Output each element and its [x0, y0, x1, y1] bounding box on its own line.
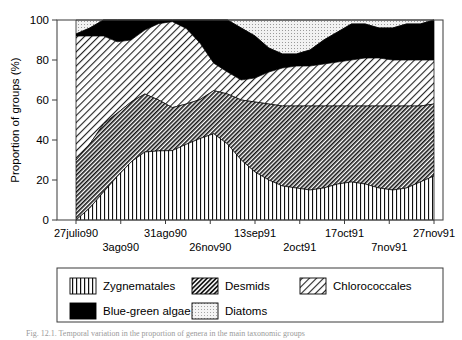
- y-tick-label: 20: [36, 174, 49, 186]
- legend-swatch: [192, 303, 218, 319]
- stacked-area-chart: 020406080100 27julio9031ago9013sep9117oc…: [0, 0, 462, 340]
- x-tick-label: 27nov91: [413, 227, 455, 239]
- figure-caption: Fig. 12.1. Temporal variation in the pro…: [26, 329, 446, 339]
- legend-label: Desmids: [225, 280, 270, 292]
- y-tick-label: 80: [36, 54, 49, 66]
- y-axis: 020406080100: [30, 14, 57, 226]
- y-axis-title: Proportion of groups (%): [9, 57, 21, 182]
- legend-label: Blue-green algae: [103, 305, 191, 317]
- legend: ZygnematalesDesmidsChlorococcalesBlue-gr…: [57, 268, 443, 322]
- legend-item-desmids[interactable]: Desmids: [192, 278, 270, 294]
- legend-label: Chlorococcales: [333, 280, 412, 292]
- x-tick-label: 3ago90: [102, 241, 139, 253]
- x-tick-label: 31ago90: [144, 227, 187, 239]
- legend-swatch: [70, 278, 96, 294]
- y-tick-label: 0: [43, 214, 49, 226]
- y-tick-label: 40: [36, 134, 49, 146]
- y-tick-label: 60: [36, 94, 49, 106]
- legend-item-blue-green-algae[interactable]: Blue-green algae: [70, 303, 191, 319]
- legend-swatch: [70, 303, 96, 319]
- y-tick-label: 100: [30, 14, 49, 26]
- x-tick-label: 2oct91: [283, 241, 316, 253]
- legend-item-zygnematales[interactable]: Zygnematales: [70, 278, 175, 294]
- x-axis: 27julio9031ago9013sep9117oct9127nov913ag…: [54, 220, 455, 253]
- legend-swatch: [192, 278, 218, 294]
- area-bands-group: [76, 20, 434, 220]
- x-tick-label: 7nov91: [371, 241, 407, 253]
- x-tick-label: 27julio90: [54, 227, 98, 239]
- legend-item-diatoms[interactable]: Diatoms: [192, 303, 267, 319]
- legend-item-chlorococcales[interactable]: Chlorococcales: [300, 278, 412, 294]
- x-tick-label: 13sep91: [234, 227, 276, 239]
- x-tick-label: 26nov90: [189, 241, 231, 253]
- legend-label: Zygnematales: [103, 280, 175, 292]
- x-tick-label: 17oct91: [325, 227, 364, 239]
- legend-label: Diatoms: [225, 305, 267, 317]
- legend-swatch: [300, 278, 326, 294]
- figure-container: 020406080100 27julio9031ago9013sep9117oc…: [0, 0, 462, 340]
